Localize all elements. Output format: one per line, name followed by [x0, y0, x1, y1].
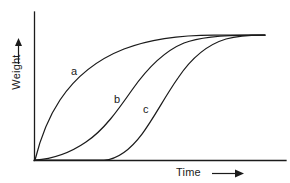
up-arrow-icon — [13, 38, 24, 64]
curve-c — [35, 35, 265, 160]
curve-label-c: c — [143, 104, 149, 115]
growth-curve-figure: a b c Weight Time — [0, 0, 290, 183]
curve-label-b: b — [114, 94, 120, 105]
plot-area — [0, 0, 290, 183]
curve-b — [35, 35, 265, 160]
curve-label-a: a — [71, 66, 77, 77]
x-axis-label: Time — [176, 166, 201, 178]
right-arrow-icon — [212, 168, 244, 179]
curve-a — [35, 35, 265, 160]
